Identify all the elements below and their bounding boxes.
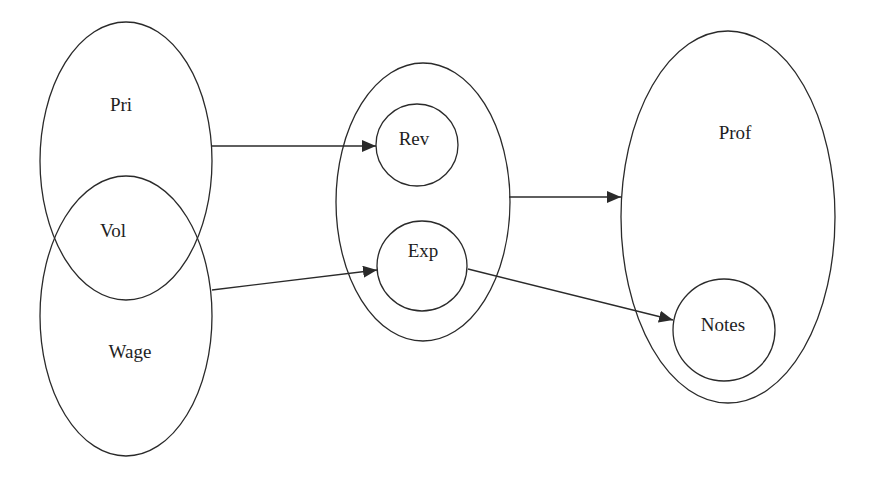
rev-label: Rev — [399, 128, 430, 149]
arrow-exp-to-notes — [468, 269, 673, 320]
pri-label: Pri — [110, 94, 132, 115]
exp-circle — [377, 221, 467, 311]
vol-label: Vol — [100, 220, 126, 241]
wage-ellipse — [40, 176, 212, 456]
prof-ellipse — [621, 31, 835, 403]
prof-label: Prof — [719, 122, 752, 143]
pri-ellipse — [40, 22, 212, 300]
diagram-canvas: Pri Vol Wage Rev Exp Prof Notes — [0, 0, 869, 478]
arrow-wage-to-exp — [212, 270, 377, 290]
wage-label: Wage — [109, 341, 152, 362]
exp-label: Exp — [408, 240, 439, 261]
notes-label: Notes — [701, 314, 745, 335]
